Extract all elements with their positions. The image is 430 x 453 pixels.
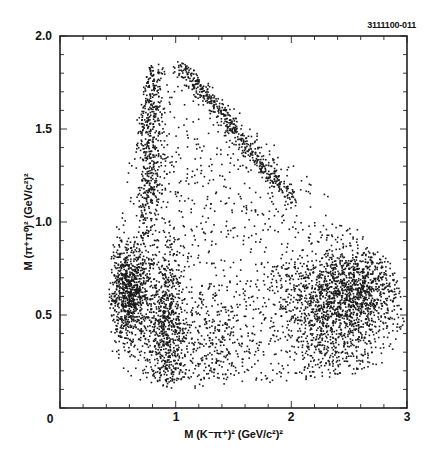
y-axis-label: M (π⁺π⁰)² (GeV/c²)² bbox=[22, 173, 35, 270]
x-axis-label: M (K⁻π⁺)² (GeV/c²)² bbox=[60, 428, 407, 441]
figure-id-label: 3111100-011 bbox=[367, 20, 416, 30]
x-tick-label-2: 2 bbox=[281, 410, 301, 424]
dalitz-plot-figure: 3111100-011 2.0 1.5 1.0 0.5 0 1 2 3 M (K… bbox=[0, 0, 430, 453]
x-tick-label-1: 1 bbox=[166, 410, 186, 424]
x-tick-label-3: 3 bbox=[397, 410, 417, 424]
scatter-points bbox=[108, 61, 405, 389]
plot-frame bbox=[60, 36, 407, 408]
scatter-plot bbox=[0, 0, 430, 453]
y-tick-label-1.5: 1.5 bbox=[22, 122, 52, 136]
x-tick-label-0: 0 bbox=[40, 412, 60, 426]
y-tick-label-2.0: 2.0 bbox=[22, 29, 52, 43]
y-tick-label-0.5: 0.5 bbox=[22, 308, 52, 322]
